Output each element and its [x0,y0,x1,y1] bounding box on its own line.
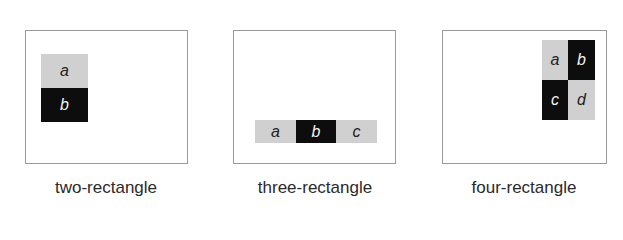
two-rectangle-frame: a b [25,30,188,164]
three-rectangle-frame: a b c [233,30,396,164]
four-rectangle-caption: four-rectangle [424,178,623,198]
four-rect-cell-d: d [568,80,595,120]
four-rectangle-frame: a b c d [442,30,607,164]
two-rect-cell-b: b [41,88,88,122]
three-rect-cell-c: c [336,120,377,143]
two-rect-cell-a: a [41,54,88,88]
four-rect-cell-b: b [568,40,595,80]
four-rect-cell-c: c [542,80,568,120]
four-rect-cell-a: a [542,40,568,80]
three-rect-cell-b: b [296,120,336,143]
three-rectangle-caption: three-rectangle [215,178,415,198]
three-rect-cell-a: a [255,120,296,143]
two-rectangle-caption: two-rectangle [6,178,206,198]
